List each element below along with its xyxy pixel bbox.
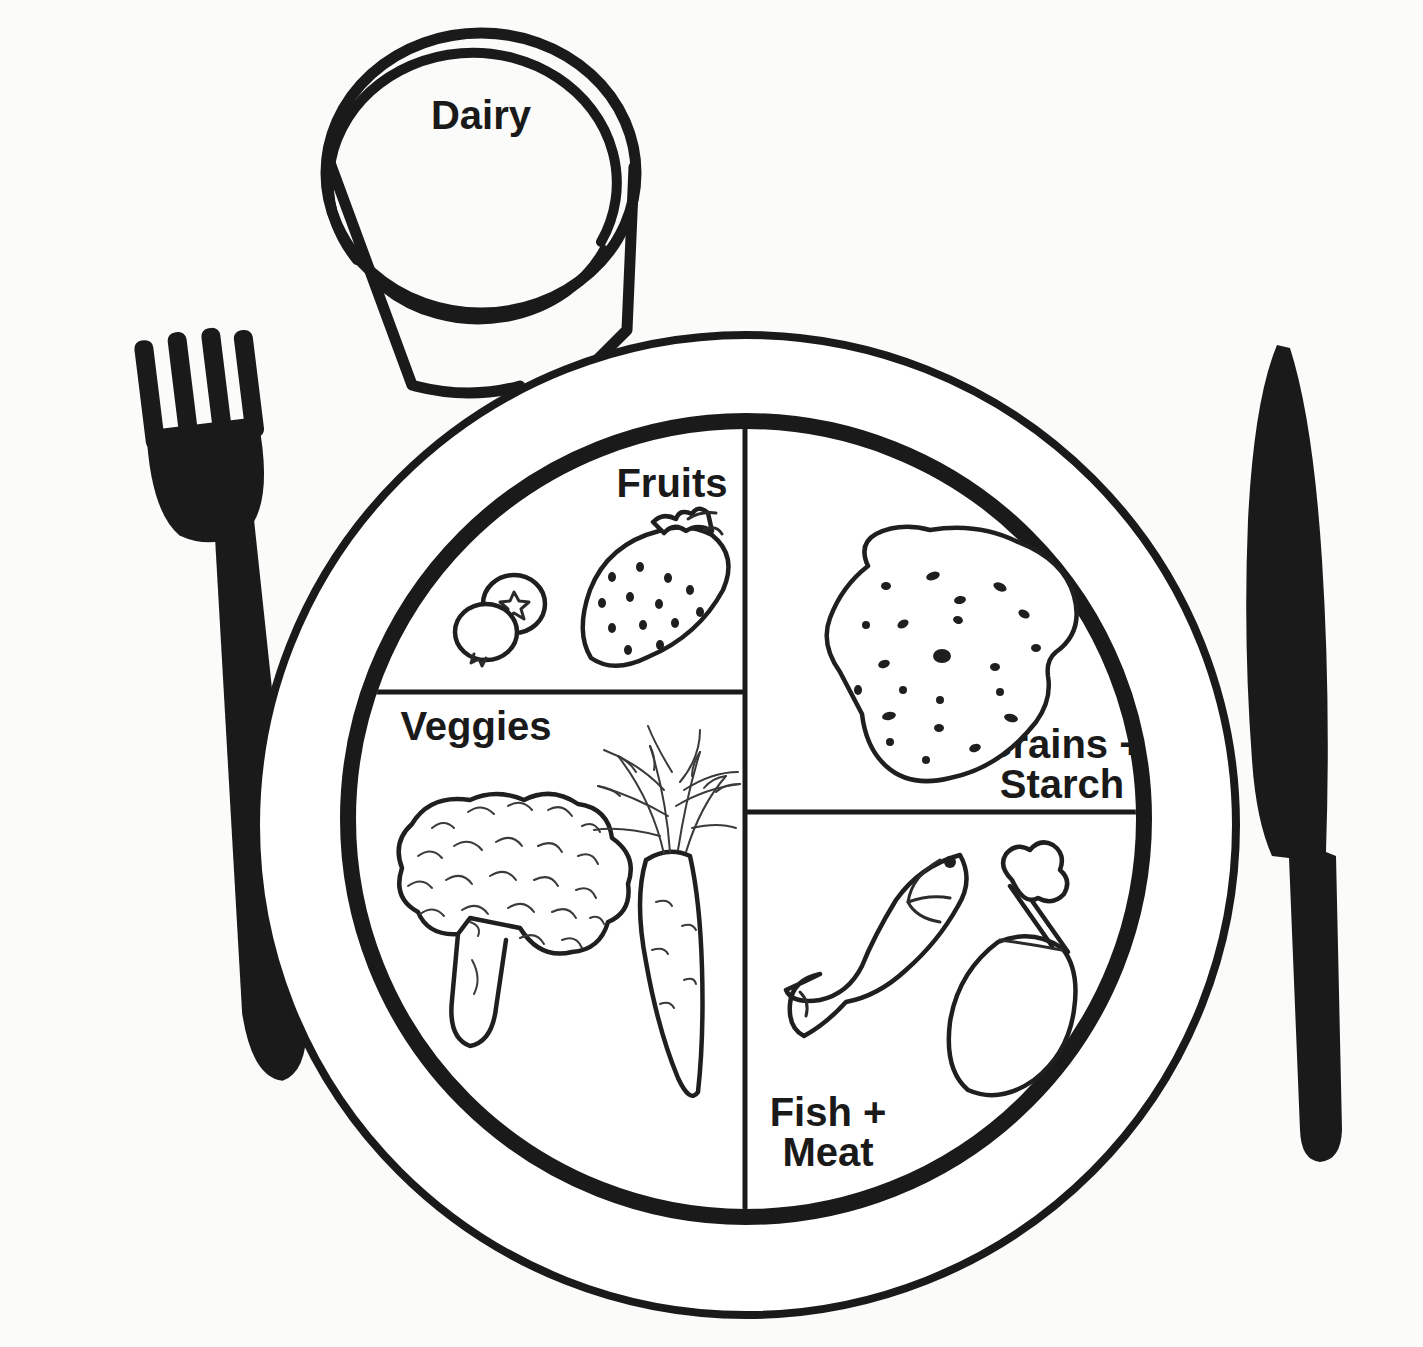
fruits-label: Fruits (616, 461, 727, 505)
dairy-label: Dairy (431, 93, 532, 137)
knife-icon (1246, 345, 1342, 1162)
diagram-canvas: Dairy (0, 0, 1423, 1347)
balanced-plate-diagram: Dairy (0, 0, 1423, 1347)
fish-eye (944, 856, 956, 868)
plate (256, 335, 1236, 1315)
grains-label-line2: Starch (1000, 762, 1125, 806)
protein-label-line1: Fish + (770, 1090, 887, 1134)
glass-base (415, 386, 520, 393)
fork-tine-1 (133, 339, 165, 450)
knife-silhouette (1246, 345, 1342, 1162)
dairy-glass-group: Dairy (326, 33, 636, 393)
veggies-label: Veggies (400, 704, 551, 748)
glass-rim-inner-upper (329, 53, 617, 260)
protein-label-line2: Meat (782, 1130, 873, 1174)
